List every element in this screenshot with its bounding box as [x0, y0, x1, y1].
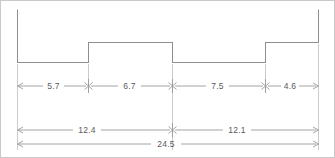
- dim-label-12p1: 12.1: [228, 125, 245, 135]
- dim-label-12p4: 12.4: [78, 125, 95, 135]
- drawing-canvas: 5.7 6.7 7.5 4.6 12.4 12.1 24.: [0, 0, 335, 158]
- figure-border: [1, 1, 335, 158]
- dim-label-6p7: 6.7: [123, 81, 135, 91]
- dim-label-4p6: 4.6: [284, 81, 296, 91]
- dim-label-7p5: 7.5: [211, 81, 223, 91]
- dim-label-5p7: 5.7: [47, 81, 59, 91]
- dimensioned-step-drawing: 5.7 6.7 7.5 4.6 12.4 12.1 24.: [0, 0, 335, 158]
- dim-label-24p5: 24.5: [157, 139, 174, 149]
